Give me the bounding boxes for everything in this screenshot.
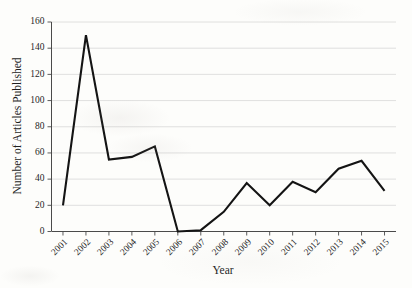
chart-canvas: 020406080100120140160 200120022003200420… — [0, 0, 412, 288]
x-tick-label: 2015 — [371, 237, 391, 257]
x-tick-label: 2009 — [233, 237, 253, 257]
y-tick-marks — [48, 22, 52, 232]
x-tick-label: 2005 — [141, 237, 161, 257]
x-tick-label: 2011 — [279, 237, 299, 257]
line-chart: 020406080100120140160 200120022003200420… — [0, 0, 412, 288]
x-tick-label: 2013 — [325, 237, 345, 257]
y-tick-label: 80 — [35, 121, 45, 131]
y-tick-label: 20 — [35, 200, 45, 210]
x-axis-title: Year — [212, 264, 233, 276]
y-tick-label: 100 — [30, 95, 45, 105]
y-tick-label: 160 — [30, 16, 45, 26]
y-tick-label: 120 — [30, 69, 45, 79]
x-tick-label: 2001 — [49, 237, 69, 257]
x-tick-label: 2010 — [256, 237, 276, 257]
y-tick-label: 140 — [30, 42, 45, 52]
x-tick-label: 2008 — [210, 237, 230, 257]
x-tick-label: 2003 — [95, 237, 115, 257]
x-tick-label: 2002 — [72, 237, 92, 257]
x-axis — [52, 232, 397, 236]
x-tick-label: 2014 — [348, 237, 368, 257]
x-tick-label: 2012 — [302, 237, 322, 257]
x-tick-label: 2007 — [187, 237, 207, 257]
y-tick-label: 40 — [35, 173, 45, 183]
y-tick-label: 0 — [40, 226, 45, 236]
y-tick-labels: 020406080100120140160 — [30, 16, 45, 236]
y-axis-title: Number of Articles Published — [11, 57, 23, 194]
x-tick-label: 2006 — [164, 237, 184, 257]
x-tick-label: 2004 — [118, 237, 138, 257]
x-tick-labels: 2001200220032004200520062007200820092010… — [49, 237, 391, 257]
x-tick-marks — [63, 232, 385, 236]
gridlines — [52, 22, 397, 205]
y-tick-label: 60 — [35, 147, 45, 157]
y-axis — [48, 22, 52, 232]
data-series-line — [63, 35, 385, 231]
